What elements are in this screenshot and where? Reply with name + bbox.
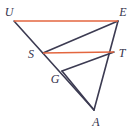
segment-EA	[94, 21, 118, 110]
dark-segments	[14, 21, 118, 110]
segment-UA	[14, 21, 94, 110]
vertex-label-S: S	[28, 48, 34, 60]
geometry-figure: U E S T G A	[0, 0, 134, 130]
figure-canvas	[0, 0, 134, 130]
segment-GA	[62, 71, 94, 110]
segment-ES	[43, 21, 118, 53]
vertex-label-G: G	[51, 73, 60, 85]
segment-TG	[62, 52, 114, 71]
segment-ST	[43, 52, 114, 53]
vertex-label-A: A	[92, 116, 99, 128]
vertex-label-U: U	[5, 6, 14, 18]
vertex-label-E: E	[119, 6, 126, 18]
vertex-label-T: T	[119, 47, 126, 59]
